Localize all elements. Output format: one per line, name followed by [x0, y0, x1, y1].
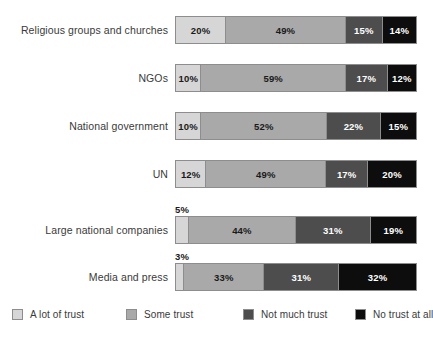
- bar-segment: 20%: [176, 17, 225, 43]
- segment-value-label: 59%: [263, 73, 283, 84]
- legend-item[interactable]: A lot of trust: [12, 306, 84, 322]
- bar-segment: 44%: [188, 217, 295, 243]
- bar-segment: 59%: [200, 65, 344, 91]
- bar-segment: 12%: [387, 65, 416, 91]
- legend-item[interactable]: No trust at all: [355, 306, 433, 322]
- stacked-bar-chart: Religious groups and churches20%49%15%14…: [0, 0, 433, 343]
- segment-value-label: 17%: [356, 73, 376, 84]
- bar-row: Religious groups and churches20%49%15%14…: [0, 16, 433, 44]
- legend-swatch-icon: [355, 309, 366, 320]
- bar-segment: 3%3%: [176, 264, 183, 290]
- bar-segment: 33%: [183, 264, 263, 290]
- segment-value-label: 32%: [368, 272, 388, 283]
- bar-row: UN12%49%17%20%: [0, 160, 433, 188]
- segment-value-label-outside: 3%: [175, 251, 189, 262]
- category-label: NGOs: [0, 72, 168, 85]
- segment-value-label: 31%: [292, 272, 312, 283]
- category-label: UN: [0, 168, 168, 181]
- legend-label: Not much trust: [261, 309, 327, 320]
- bar-segment: 17%: [325, 161, 367, 187]
- segment-value-label: 15%: [388, 121, 408, 132]
- bar-segment: 5%5%: [176, 217, 188, 243]
- segment-value-label: 19%: [384, 225, 404, 236]
- bar-segment: 19%: [370, 217, 416, 243]
- segment-value-label: 22%: [344, 121, 364, 132]
- segment-value-label: 44%: [232, 225, 252, 236]
- segment-value-label: 15%: [354, 25, 374, 36]
- bar-segment: 15%: [345, 17, 382, 43]
- category-label: Large national companies: [0, 224, 168, 237]
- segment-value-label: 20%: [382, 169, 402, 180]
- segment-value-label: 10%: [178, 121, 198, 132]
- bar-segment: 32%: [338, 264, 416, 290]
- segment-value-label: 20%: [191, 25, 211, 36]
- segment-value-label: 10%: [178, 73, 198, 84]
- stacked-bar: 20%49%15%14%: [175, 16, 417, 44]
- bar-segment: 31%: [295, 217, 370, 243]
- bar-segment: 31%: [263, 264, 338, 290]
- legend-swatch-icon: [243, 309, 254, 320]
- category-label: Religious groups and churches: [0, 24, 168, 37]
- legend-label: Some trust: [144, 309, 193, 320]
- segment-value-label: 49%: [276, 25, 296, 36]
- bar-row: Media and press3%3%33%31%32%: [0, 263, 433, 291]
- bar-segment: 22%: [326, 113, 379, 139]
- category-label: Media and press: [0, 271, 168, 284]
- legend-item[interactable]: Not much trust: [243, 306, 327, 322]
- bar-segment: 17%: [345, 65, 387, 91]
- stacked-bar: 5%5%44%31%19%: [175, 216, 417, 244]
- bar-segment: 49%: [205, 161, 325, 187]
- legend-label: A lot of trust: [30, 309, 84, 320]
- segment-value-label: 33%: [214, 272, 234, 283]
- stacked-bar: 10%52%22%15%: [175, 112, 417, 140]
- segment-value-label: 17%: [337, 169, 357, 180]
- bar-segment: 14%: [382, 17, 416, 43]
- bar-segment: 10%: [176, 65, 200, 91]
- stacked-bar: 10%59%17%12%: [175, 64, 417, 92]
- segment-value-label: 12%: [392, 73, 412, 84]
- segment-value-label: 31%: [323, 225, 343, 236]
- segment-value-label: 49%: [256, 169, 276, 180]
- chart-legend: A lot of trustSome trustNot much trustNo…: [0, 306, 433, 326]
- bar-segment: 49%: [225, 17, 345, 43]
- bar-row: National government10%52%22%15%: [0, 112, 433, 140]
- legend-item[interactable]: Some trust: [126, 306, 193, 322]
- legend-label: No trust at all: [373, 309, 433, 320]
- segment-value-label-outside: 5%: [175, 204, 189, 215]
- segment-value-label: 12%: [181, 169, 201, 180]
- stacked-bar: 12%49%17%20%: [175, 160, 417, 188]
- bar-row: Large national companies5%5%44%31%19%: [0, 216, 433, 244]
- segment-value-label: 52%: [254, 121, 274, 132]
- bar-row: NGOs10%59%17%12%: [0, 64, 433, 92]
- segment-value-label: 14%: [390, 25, 410, 36]
- bar-segment: 10%: [176, 113, 200, 139]
- bar-segment: 15%: [380, 113, 416, 139]
- bar-segment: 12%: [176, 161, 205, 187]
- category-label: National government: [0, 120, 168, 133]
- legend-swatch-icon: [126, 309, 137, 320]
- bar-segment: 20%: [367, 161, 416, 187]
- bar-segment: 52%: [200, 113, 326, 139]
- stacked-bar: 3%3%33%31%32%: [175, 263, 417, 291]
- legend-swatch-icon: [12, 309, 23, 320]
